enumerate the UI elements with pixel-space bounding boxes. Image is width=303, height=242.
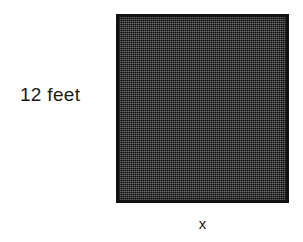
shaded-square	[116, 14, 289, 203]
square-shading-overlay	[119, 17, 286, 200]
height-label: 12 feet	[20, 83, 80, 107]
width-label: x	[116, 214, 289, 234]
diagram-canvas: 12 feet x	[0, 0, 303, 242]
